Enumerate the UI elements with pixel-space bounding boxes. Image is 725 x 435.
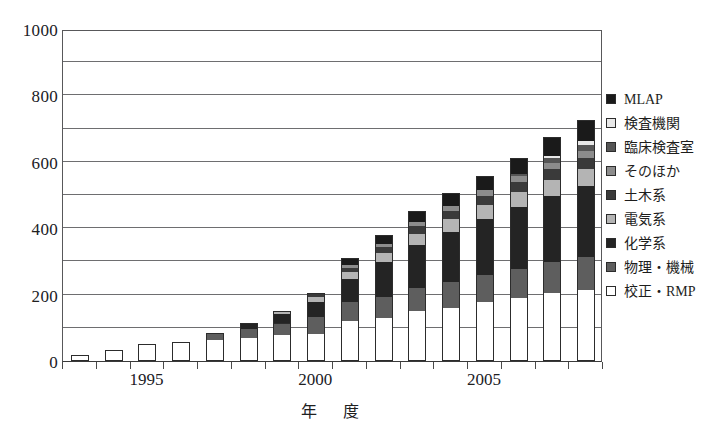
- bar-segment[interactable]: [240, 337, 258, 361]
- bar-segment[interactable]: [510, 181, 528, 192]
- bar-group[interactable]: [273, 312, 291, 361]
- bar-segment[interactable]: [510, 175, 528, 182]
- legend-item[interactable]: 検査機関: [606, 111, 725, 135]
- bar-segment[interactable]: [510, 158, 528, 174]
- bar-segment[interactable]: [138, 344, 156, 361]
- bar-segment[interactable]: [408, 244, 426, 288]
- bar-segment[interactable]: [408, 310, 426, 361]
- bar-segment[interactable]: [442, 210, 460, 219]
- bar-group[interactable]: [307, 294, 325, 361]
- bar-segment[interactable]: [375, 246, 393, 253]
- bar-segment[interactable]: [476, 176, 494, 190]
- bar-segment[interactable]: [476, 195, 494, 205]
- bar-segment[interactable]: [375, 235, 393, 244]
- bar-segment[interactable]: [543, 261, 561, 293]
- legend-item[interactable]: 物理・機械: [606, 255, 725, 279]
- bar-segment[interactable]: [307, 333, 325, 361]
- bar-segment[interactable]: [307, 293, 325, 297]
- bar-segment[interactable]: [577, 144, 595, 151]
- legend-item[interactable]: 土木系: [606, 183, 725, 207]
- bar-group[interactable]: [240, 323, 258, 361]
- bar-segment[interactable]: [442, 218, 460, 232]
- bar-segment[interactable]: [105, 350, 123, 361]
- bar-segment[interactable]: [476, 204, 494, 219]
- bar-segment[interactable]: [543, 292, 561, 361]
- bar-group[interactable]: [206, 334, 224, 361]
- bar-segment[interactable]: [172, 342, 190, 361]
- bar-segment[interactable]: [577, 168, 595, 186]
- bar-segment[interactable]: [510, 297, 528, 361]
- legend-item-label: MLAP: [624, 92, 663, 107]
- bar-segment[interactable]: [577, 157, 595, 169]
- bar-segment[interactable]: [442, 231, 460, 282]
- bar-segment[interactable]: [375, 252, 393, 262]
- bar-segment[interactable]: [408, 225, 426, 233]
- legend-swatch-icon: [606, 262, 616, 272]
- bar-segment[interactable]: [273, 334, 291, 361]
- y-axis-tick-label: 400: [4, 221, 58, 238]
- legend-item[interactable]: そのほか: [606, 159, 725, 183]
- bar-segment[interactable]: [375, 317, 393, 361]
- bar-group[interactable]: [138, 345, 156, 361]
- bar-segment[interactable]: [543, 168, 561, 180]
- bar-segment[interactable]: [240, 328, 258, 337]
- legend-swatch-icon: [606, 94, 616, 104]
- bar-segment[interactable]: [375, 261, 393, 297]
- bar-segment[interactable]: [543, 162, 561, 170]
- legend-item[interactable]: MLAP: [606, 87, 725, 111]
- bar-segment[interactable]: [408, 233, 426, 245]
- bar-segment[interactable]: [476, 218, 494, 275]
- bar-segment[interactable]: [375, 296, 393, 318]
- bar-group[interactable]: [543, 138, 561, 361]
- bar-segment[interactable]: [408, 287, 426, 311]
- bar-segment[interactable]: [71, 355, 89, 361]
- bar-group[interactable]: [442, 194, 460, 361]
- bar-segment[interactable]: [577, 120, 595, 141]
- bar-segment[interactable]: [577, 185, 595, 257]
- bar-segment[interactable]: [240, 323, 258, 330]
- bar-segment[interactable]: [273, 313, 291, 323]
- bar-group[interactable]: [341, 259, 359, 361]
- bar-segment[interactable]: [442, 193, 460, 206]
- legend-item[interactable]: 臨床検査室: [606, 135, 725, 159]
- bar-segment[interactable]: [543, 179, 561, 196]
- bar-segment[interactable]: [442, 307, 460, 361]
- bar-segment[interactable]: [341, 301, 359, 321]
- bar-segment[interactable]: [206, 333, 224, 340]
- bar-segment[interactable]: [307, 301, 325, 317]
- bar-segment[interactable]: [510, 268, 528, 298]
- bar-group[interactable]: [510, 159, 528, 361]
- bar-segment[interactable]: [577, 150, 595, 158]
- bar-segment[interactable]: [476, 274, 494, 302]
- bar-group[interactable]: [375, 236, 393, 361]
- x-axis-tick: [62, 362, 63, 369]
- bar-group[interactable]: [577, 121, 595, 361]
- legend-item-label: 臨床検査室: [624, 140, 694, 155]
- legend-item[interactable]: 電気系: [606, 207, 725, 231]
- bar-segment[interactable]: [341, 258, 359, 266]
- bar-segment[interactable]: [510, 206, 528, 268]
- bar-group[interactable]: [476, 177, 494, 361]
- bar-segment[interactable]: [442, 281, 460, 308]
- bar-segment[interactable]: [341, 271, 359, 279]
- legend-item[interactable]: 校正・RMP: [606, 279, 725, 303]
- bar-group[interactable]: [71, 356, 89, 361]
- bar-segment[interactable]: [408, 211, 426, 222]
- bar-segment[interactable]: [577, 289, 595, 361]
- bar-segment[interactable]: [273, 311, 291, 315]
- bar-group[interactable]: [105, 351, 123, 361]
- bar-segment[interactable]: [543, 195, 561, 262]
- bar-segment[interactable]: [341, 278, 359, 302]
- legend-item[interactable]: 化学系: [606, 231, 725, 255]
- bar-segment[interactable]: [307, 316, 325, 334]
- bar-segment[interactable]: [273, 323, 291, 336]
- bar-group[interactable]: [408, 212, 426, 361]
- bar-segment[interactable]: [510, 191, 528, 207]
- bar-segment[interactable]: [341, 320, 359, 361]
- bar-segment[interactable]: [577, 256, 595, 290]
- x-axis-tick: [400, 362, 401, 369]
- bar-segment[interactable]: [476, 301, 494, 361]
- bar-segment[interactable]: [543, 137, 561, 156]
- bar-group[interactable]: [172, 343, 190, 361]
- bar-segment[interactable]: [206, 339, 224, 361]
